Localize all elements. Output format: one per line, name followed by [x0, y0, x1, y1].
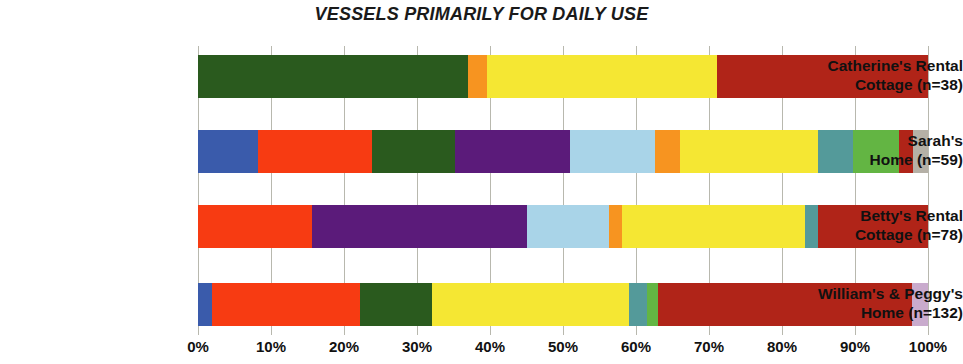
bar-segment-red [212, 283, 360, 326]
bar-segment-dark-green [360, 283, 432, 326]
x-tick-label-10: 10% [236, 338, 306, 355]
bar-segment-orange [609, 205, 622, 248]
bar-segment-red [198, 205, 312, 248]
x-tick-label-20: 20% [309, 338, 379, 355]
category-label-line: Cottage (n=78) [775, 225, 963, 244]
category-label: Betty's RentalCottage (n=78) [775, 206, 963, 244]
category-label-line: Sarah's [775, 131, 963, 150]
bar-segment-purple [312, 205, 527, 248]
category-label: Sarah'sHome (n=59) [775, 131, 963, 169]
x-tick-label-70: 70% [674, 338, 744, 355]
bar-segment-yellow [432, 283, 628, 326]
bar-segment-dark-green [198, 55, 468, 98]
x-tick-label-40: 40% [455, 338, 525, 355]
category-label-line: Betty's Rental [775, 206, 963, 225]
bar-segment-yellow [487, 55, 717, 98]
x-tick-label-100: 100% [893, 338, 963, 355]
stacked-bar-chart: VESSELS PRIMARILY FOR DAILY USE Catherin… [0, 0, 963, 364]
bar-segment-orange [468, 55, 487, 98]
category-label: Catherine's RentalCottage (n=38) [775, 56, 963, 94]
category-label-line: Cottage (n=38) [775, 75, 963, 94]
category-label-line: William's & Peggy's [775, 284, 963, 303]
bar-segment-red [258, 130, 372, 173]
bar-segment-dark-green [372, 130, 455, 173]
bar-segment-blue [198, 283, 212, 326]
bar-segment-light-blue [570, 130, 655, 173]
x-tick-label-50: 50% [528, 338, 598, 355]
category-label-line: Home (n=59) [775, 150, 963, 169]
category-label-line: Home (n=132) [775, 303, 963, 322]
bar-segment-light-blue [527, 205, 609, 248]
category-label: William's & Peggy'sHome (n=132) [775, 284, 963, 322]
x-tick-label-60: 60% [601, 338, 671, 355]
bar-segment-green [647, 283, 658, 326]
x-tick-label-0: 0% [163, 338, 233, 355]
bar-segment-purple [455, 130, 570, 173]
bar-segment-orange [655, 130, 680, 173]
chart-title: VESSELS PRIMARILY FOR DAILY USE [0, 4, 963, 25]
x-tick-label-90: 90% [820, 338, 890, 355]
bar-segment-blue [198, 130, 258, 173]
x-tick-label-30: 30% [382, 338, 452, 355]
bar-segment-teal [629, 283, 647, 326]
x-tick-label-80: 80% [747, 338, 817, 355]
category-label-line: Catherine's Rental [775, 56, 963, 75]
